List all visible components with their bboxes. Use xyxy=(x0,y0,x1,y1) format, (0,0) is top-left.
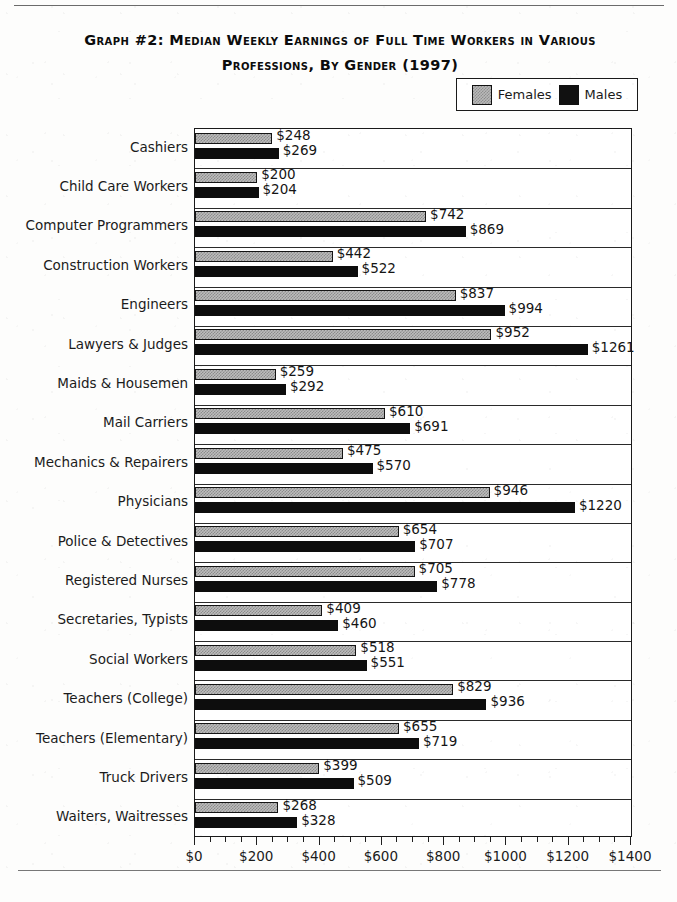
x-tick-label: $200 xyxy=(239,848,273,864)
group-separator xyxy=(195,444,631,445)
legend-label-females: Females xyxy=(498,87,552,102)
x-tick-minor xyxy=(365,837,366,842)
x-tick-major xyxy=(194,837,195,845)
bar-group: $248$269 xyxy=(195,129,631,168)
x-tick-label: $400 xyxy=(301,848,335,864)
group-separator xyxy=(195,208,631,209)
bar-females xyxy=(195,369,276,380)
bar-value-label: $409 xyxy=(326,603,360,614)
bar-value-label: $399 xyxy=(323,760,357,771)
category-label-column: CashiersChild Care WorkersComputer Progr… xyxy=(0,128,188,837)
category-label: Secretaries, Typists xyxy=(0,611,188,627)
category-label: Lawyers & Judges xyxy=(0,336,188,352)
bar-group: $200$204 xyxy=(195,168,631,207)
bar-value-label: $778 xyxy=(441,578,475,589)
group-separator xyxy=(195,759,631,760)
x-tick-minor xyxy=(474,837,475,842)
x-tick-major xyxy=(319,837,320,845)
category-label: Teachers (Elementary) xyxy=(0,730,188,746)
bar-value-label: $946 xyxy=(494,485,528,496)
x-tick-minor xyxy=(583,837,584,842)
category-label: Cashiers xyxy=(0,139,188,155)
bar-males xyxy=(195,384,286,395)
legend-label-males: Males xyxy=(585,87,623,102)
x-tick-minor xyxy=(521,837,522,842)
x-tick-major xyxy=(568,837,569,845)
group-separator xyxy=(195,680,631,681)
bar-value-label: $719 xyxy=(423,736,457,747)
solid-black-swatch-icon xyxy=(559,85,579,105)
x-tick-minor xyxy=(241,837,242,842)
bar-value-label: $1261 xyxy=(592,342,635,353)
bar-females xyxy=(195,487,490,498)
x-tick-label: $1000 xyxy=(484,848,527,864)
bar-females xyxy=(195,290,456,301)
x-tick-major xyxy=(256,837,257,845)
bar-value-label: $829 xyxy=(457,681,491,692)
x-tick-minor xyxy=(412,837,413,842)
bar-males xyxy=(195,738,419,749)
category-label: Police & Detectives xyxy=(0,533,188,549)
category-label: Computer Programmers xyxy=(0,217,188,233)
x-tick-label: $1200 xyxy=(546,848,589,864)
x-tick-minor xyxy=(225,837,226,842)
bar-group: $409$460 xyxy=(195,602,631,641)
group-separator xyxy=(195,799,631,800)
x-tick-major xyxy=(630,837,631,845)
bar-group: $268$328 xyxy=(195,799,631,838)
x-tick-minor xyxy=(210,837,211,842)
bar-females xyxy=(195,684,453,695)
bar-value-label: $742 xyxy=(430,209,464,220)
bar-males xyxy=(195,266,358,277)
bar-males xyxy=(195,699,486,710)
bar-value-label: $259 xyxy=(280,366,314,377)
bar-value-label: $654 xyxy=(403,524,437,535)
bar-males xyxy=(195,660,367,671)
bar-males xyxy=(195,620,338,631)
bar-value-label: $869 xyxy=(470,224,504,235)
x-tick-label: $0 xyxy=(185,848,202,864)
x-tick-minor xyxy=(459,837,460,842)
category-label: Maids & Housemen xyxy=(0,375,188,391)
bar-males xyxy=(195,187,259,198)
bar-value-label: $292 xyxy=(290,381,324,392)
bar-females xyxy=(195,526,399,537)
category-label: Waiters, Waitresses xyxy=(0,808,188,824)
x-tick-minor xyxy=(350,837,351,842)
legend-item-females: Females xyxy=(472,85,552,105)
chart-title: Graph #2: Median Weekly Earnings of Full… xyxy=(40,28,640,78)
bar-group: $259$292 xyxy=(195,365,631,404)
x-tick-minor xyxy=(272,837,273,842)
chart-title-line-1: Graph #2: Median Weekly Earnings of Full… xyxy=(84,32,596,48)
bar-males xyxy=(195,226,466,237)
bar-females xyxy=(195,566,415,577)
category-label: Truck Drivers xyxy=(0,769,188,785)
bar-value-label: $1220 xyxy=(579,500,622,511)
category-label: Mail Carriers xyxy=(0,414,188,430)
x-tick-major xyxy=(505,837,506,845)
bar-group: $610$691 xyxy=(195,405,631,444)
bar-females xyxy=(195,329,491,340)
bar-value-label: $837 xyxy=(460,288,494,299)
x-tick-major xyxy=(443,837,444,845)
x-tick-minor xyxy=(396,837,397,842)
group-separator xyxy=(195,562,631,563)
bar-value-label: $655 xyxy=(403,721,437,732)
bar-group: $742$869 xyxy=(195,208,631,247)
bar-group: $518$551 xyxy=(195,641,631,680)
bar-value-label: $522 xyxy=(362,263,396,274)
bar-males xyxy=(195,778,354,789)
bar-value-label: $551 xyxy=(371,657,405,668)
bar-group: $655$719 xyxy=(195,720,631,759)
bar-group: $442$522 xyxy=(195,247,631,286)
bar-value-label: $691 xyxy=(414,421,448,432)
bar-females xyxy=(195,172,257,183)
group-separator xyxy=(195,641,631,642)
bar-males xyxy=(195,581,437,592)
chart-legend: Females Males xyxy=(456,78,638,111)
bar-males xyxy=(195,502,575,513)
bar-value-label: $248 xyxy=(276,130,310,141)
group-separator xyxy=(195,287,631,288)
category-label: Teachers (College) xyxy=(0,690,188,706)
bar-group: $654$707 xyxy=(195,523,631,562)
